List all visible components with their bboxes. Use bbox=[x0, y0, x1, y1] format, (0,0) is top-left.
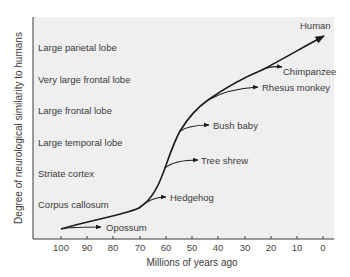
x-axis-title: Millions of years ago bbox=[146, 257, 238, 268]
x-tick-label: 20 bbox=[266, 242, 277, 253]
y-axis-title: Degree of neurological similarity to hum… bbox=[13, 32, 24, 224]
x-tick-labels: 100 90 80 70 60 50 40 30 20 10 0 bbox=[53, 242, 326, 253]
x-tick-label: 30 bbox=[240, 242, 251, 253]
evolution-chart: Degree of neurological similarity to hum… bbox=[0, 0, 350, 277]
x-tick-label: 70 bbox=[135, 242, 146, 253]
x-tick-label: 10 bbox=[292, 242, 303, 253]
x-tick-label: 60 bbox=[161, 242, 172, 253]
y-level-label: Striate cortex bbox=[38, 168, 94, 179]
y-level-label: Large parietal lobe bbox=[38, 42, 117, 53]
species-label-opossum: Opossum bbox=[106, 222, 147, 233]
species-label-human: Human bbox=[300, 20, 331, 31]
species-label-bush-baby: Bush baby bbox=[213, 120, 258, 131]
x-tick-label: 40 bbox=[213, 242, 224, 253]
species-label-hedgehog: Hedgehog bbox=[170, 192, 214, 203]
y-level-label: Very large frontal lobe bbox=[38, 74, 130, 85]
y-level-label: Corpus callosum bbox=[38, 199, 109, 210]
species-label-tree-shrew: Tree shrew bbox=[201, 155, 248, 166]
x-tick-label: 80 bbox=[108, 242, 119, 253]
x-tick-label: 50 bbox=[187, 242, 198, 253]
x-tick-label: 90 bbox=[82, 242, 93, 253]
y-level-label: Large frontal lobe bbox=[38, 105, 112, 116]
species-label-rhesus: Rhesus monkey bbox=[262, 82, 330, 93]
x-tick-label: 0 bbox=[320, 242, 325, 253]
y-level-label: Large temporal lobe bbox=[38, 137, 123, 148]
species-label-chimpanzee: Chimpanzee bbox=[283, 66, 336, 77]
x-tick-label: 100 bbox=[53, 242, 69, 253]
